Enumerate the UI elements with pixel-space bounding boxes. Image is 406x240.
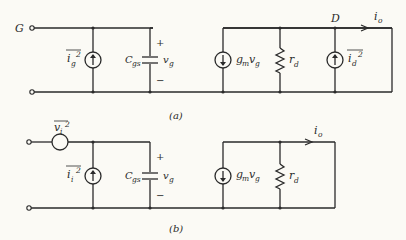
svg-text:g: g: [255, 174, 260, 183]
circuit-diagram: G i g 2 C gs v g + −: [0, 0, 406, 240]
dependent-current-source-a: g m v g: [215, 28, 260, 94]
arrow-down-icon: [220, 62, 226, 66]
ground-terminal-b: [27, 206, 31, 210]
panel-a: G i g 2 C gs v g + −: [15, 10, 392, 121]
arrow-up-icon: [332, 54, 338, 58]
input-terminal-b: [27, 140, 31, 144]
svg-text:d: d: [294, 60, 299, 69]
svg-text:i: i: [67, 52, 71, 65]
svg-text:o: o: [318, 130, 323, 139]
svg-text:d: d: [294, 176, 299, 185]
arrow-down-icon: [220, 178, 226, 182]
drain-label: D: [330, 12, 340, 25]
svg-text:g: g: [255, 59, 260, 68]
dependent-current-source-b: g m v g: [215, 142, 260, 210]
caption-a: (a): [169, 110, 183, 121]
svg-text:2: 2: [75, 50, 81, 59]
svg-text:−: −: [156, 190, 164, 201]
svg-text:i: i: [374, 10, 378, 23]
resistor-rd-b: r d: [276, 140, 299, 209]
svg-text:g: g: [71, 59, 76, 68]
ground-terminal-a: [30, 90, 34, 94]
input-voltage-noise-source: v i 2: [52, 120, 70, 150]
svg-text:2: 2: [64, 120, 70, 129]
svg-text:gs: gs: [132, 175, 141, 184]
svg-text:2: 2: [75, 166, 81, 175]
svg-text:i: i: [314, 124, 318, 137]
arrow-up-icon: [90, 170, 96, 174]
gate-label: G: [15, 22, 24, 35]
svg-text:i: i: [67, 168, 71, 181]
svg-text:+: +: [156, 151, 164, 162]
gate-terminal: [30, 26, 34, 30]
input-current-noise-source: i i 2: [66, 140, 101, 209]
svg-text:g: g: [169, 59, 174, 68]
caption-b: (b): [169, 223, 183, 234]
svg-text:i: i: [71, 175, 74, 184]
panel-b: v i 2 i i 2 C gs v g +: [27, 120, 335, 234]
svg-text:g: g: [169, 175, 174, 184]
svg-text:gs: gs: [132, 59, 141, 68]
arrow-up-icon: [90, 54, 96, 58]
drain-noise-current-source: i d 2 D: [327, 12, 363, 94]
svg-text:o: o: [378, 16, 383, 25]
svg-text:−: −: [156, 75, 164, 86]
svg-text:d: d: [352, 59, 357, 68]
svg-text:2: 2: [357, 50, 363, 59]
resistor-rd-a: r d: [276, 26, 299, 93]
gate-noise-current-source: i g 2: [66, 26, 101, 93]
svg-text:+: +: [156, 37, 164, 48]
svg-text:i: i: [348, 52, 352, 65]
